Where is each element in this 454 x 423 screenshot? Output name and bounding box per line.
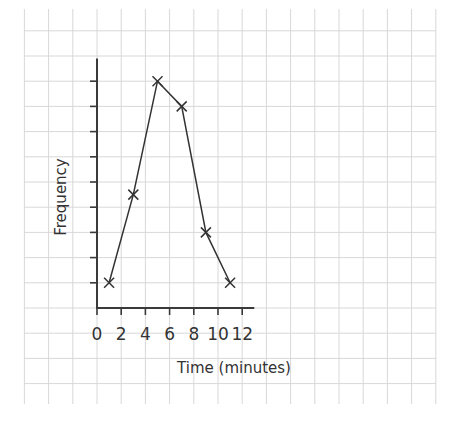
y-axis-label: Frequency — [52, 158, 70, 236]
x-tick-label: 10 — [207, 324, 229, 344]
x-tick-label: 0 — [92, 324, 103, 344]
x-tick-label: 4 — [140, 324, 151, 344]
x-tick-label: 12 — [231, 324, 253, 344]
axes — [96, 59, 254, 309]
graph-paper-grid — [24, 9, 436, 404]
x-ticks: 024681012 — [92, 308, 253, 344]
y-ticks — [90, 81, 97, 283]
frequency-polygon-chart: 024681012 Time (minutes) Frequency — [0, 0, 454, 423]
x-tick-label: 8 — [188, 324, 199, 344]
x-tick-label: 6 — [164, 324, 175, 344]
x-tick-label: 2 — [116, 324, 127, 344]
x-axis-label: Time (minutes) — [176, 359, 291, 377]
